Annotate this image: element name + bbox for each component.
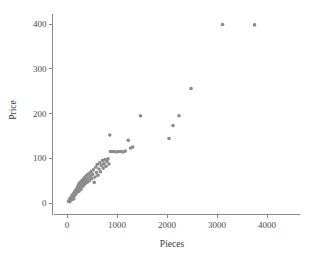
data-point [72,197,76,201]
data-point [126,139,130,143]
data-point [91,168,95,172]
data-point [96,173,100,177]
data-point [253,23,257,27]
data-point [131,145,135,149]
y-tick-label: 400 [33,19,47,29]
y-tick-label: 200 [33,109,47,119]
axes-layer [53,14,301,215]
data-point [107,162,111,166]
data-point [99,170,103,174]
x-tick-label: 2000 [158,220,177,230]
data-point [104,165,108,169]
x-tick-label: 4000 [258,220,277,230]
x-tick-label: 3000 [208,220,227,230]
x-axis-title: Pieces [160,239,185,249]
y-tick-label: 0 [42,198,47,208]
data-point [123,149,127,153]
data-point [171,124,175,128]
plot-canvas: 010002000300040000100200300400 Pieces Pr… [0,0,311,260]
x-tick-label: 0 [65,220,70,230]
data-point [108,133,112,137]
data-point [92,181,96,185]
scatter-chart: 010002000300040000100200300400 Pieces Pr… [0,0,311,260]
x-tick-label: 1000 [108,220,127,230]
data-point [167,137,171,141]
data-point [139,114,143,118]
data-points-layer [67,23,257,204]
y-tick-label: 100 [33,153,47,163]
data-point [90,177,94,181]
data-point [189,87,193,91]
data-point [177,114,181,118]
y-axis-title: Price [8,100,18,120]
data-point [221,23,225,27]
y-tick-label: 300 [33,64,47,74]
data-point [93,175,97,179]
data-point [106,157,110,161]
data-point [91,173,95,177]
